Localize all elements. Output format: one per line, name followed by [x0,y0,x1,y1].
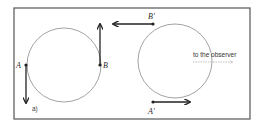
left-circle-group: A B a) [15,24,108,113]
right-circle [138,24,212,98]
point-b [98,63,101,66]
point-b-label: B [103,61,108,70]
point-b-prime-label: B′ [148,12,155,21]
right-circle-group: B′ A′ [113,12,212,116]
panel-label: a) [32,105,38,113]
point-a-label: A [15,61,21,70]
point-a [24,63,27,66]
rotating-sphere-diagram: A B a) B′ A′ to the observer [0,0,267,128]
point-a-prime [151,100,154,103]
point-b-prime [151,22,154,25]
point-a-prime-label: A′ [147,107,155,116]
observer-label: to the observer [193,51,237,58]
left-circle [27,28,101,102]
observer-direction: to the observer [193,51,237,62]
